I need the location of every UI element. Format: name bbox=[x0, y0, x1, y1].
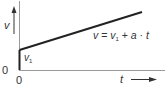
velocity-time-diagram: v 0 0 t v1 v = v1 + a · t bbox=[0, 0, 165, 89]
x-axis-label: t bbox=[120, 73, 124, 85]
y-axis-label: v bbox=[4, 19, 11, 31]
formula: v = v1 + a · t bbox=[93, 29, 150, 43]
y-origin-label: 0 bbox=[2, 64, 8, 76]
initial-velocity-label: v1 bbox=[24, 52, 33, 64]
y-arrow-icon bbox=[12, 6, 17, 34]
x-arrow-icon bbox=[131, 77, 157, 82]
x-origin-label: 0 bbox=[16, 74, 22, 86]
